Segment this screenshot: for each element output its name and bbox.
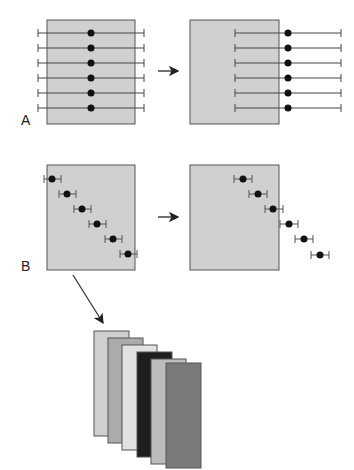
panel-b-after — [190, 165, 329, 270]
panel-a-label: A — [21, 112, 31, 128]
panel-a-after — [190, 20, 341, 124]
panel-b-label: B — [21, 258, 30, 274]
panel-a-before — [38, 20, 144, 124]
arrow-down-icon — [73, 275, 103, 323]
diagram: A B — [0, 0, 354, 470]
slice-stack — [94, 331, 201, 468]
panel-b-before — [44, 165, 137, 270]
